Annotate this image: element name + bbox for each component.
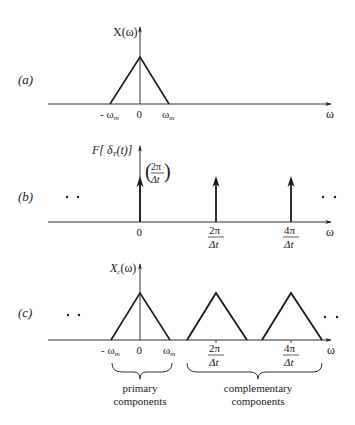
x-axis-label: ω: [326, 107, 334, 121]
svg-text:4π: 4π: [284, 224, 296, 236]
primary-label-line2: components: [113, 395, 166, 407]
complementary-triangle-1: [187, 293, 247, 340]
primary-label-line1: primary: [123, 382, 158, 394]
panel-a-label: (a): [18, 72, 33, 87]
y-axis-label: X(ω): [113, 25, 138, 39]
svg-text:2π: 2π: [209, 342, 221, 354]
tick-labels: - ωm 0 ωm: [100, 108, 174, 122]
tick-omega-m: ωm: [163, 344, 175, 358]
svg-text:Δt: Δt: [283, 356, 294, 368]
tick-neg-omega-m: - ωm: [100, 108, 119, 122]
x-axis-label: ω: [326, 225, 334, 239]
ellipsis-right: [324, 316, 326, 318]
sampling-spectrum-diagram: (a) X(ω) - ωm 0 ωm ω (b) F[ δT(t)] ( 2π: [0, 0, 355, 425]
ellipsis-right: [322, 196, 324, 198]
tick-2pi-over-dt: 2π Δt: [208, 342, 224, 368]
svg-text:2π: 2π: [209, 224, 221, 236]
tick-zero: 0: [137, 344, 143, 356]
primary-triangle: [111, 293, 170, 340]
panel-b: (b) F[ δT(t)] ( 2π Δt ) 0 2π Δt: [18, 143, 336, 250]
svg-text:Δt: Δt: [283, 238, 294, 250]
spectrum-triangle: [110, 57, 169, 104]
y-axis-label: F[ δT(t)]: [91, 143, 133, 158]
panel-c-label: (c): [18, 305, 32, 320]
complementary-triangle-2: [262, 293, 322, 340]
complementary-label-line1: complementary: [224, 382, 293, 394]
panel-b-label: (b): [18, 189, 33, 204]
complementary-brace: [187, 363, 322, 379]
svg-text:Δt: Δt: [150, 174, 160, 185]
x-axis-label: ω: [327, 343, 335, 357]
tick-2pi-over-dt: 2π Δt: [208, 224, 224, 250]
svg-text:2π: 2π: [151, 161, 161, 172]
impulse-weight-label: ( 2π Δt ): [145, 160, 171, 185]
panel-a: (a) X(ω) - ωm 0 ωm ω: [18, 25, 334, 122]
panel-c: (c) Xc(ω) - ωm 0 ωm 2π Δt 4π Δt ω: [18, 261, 338, 407]
svg-text:Δt: Δt: [208, 356, 219, 368]
complementary-label-line2: components: [231, 395, 284, 407]
ellipsis-left: [66, 196, 68, 198]
tick-zero: 0: [137, 108, 143, 120]
paren-right: ): [164, 160, 171, 183]
y-axis-label: Xc(ω): [109, 261, 136, 276]
tick-4pi-over-dt: 4π Δt: [283, 224, 299, 250]
primary-brace: [112, 363, 172, 379]
tick-4pi-over-dt: 4π Δt: [283, 342, 299, 368]
tick-omega-m: ωm: [162, 108, 174, 122]
svg-text:Δt: Δt: [208, 238, 219, 250]
svg-text:4π: 4π: [284, 342, 296, 354]
tick-neg-omega-m: - ωm: [101, 344, 120, 358]
tick-zero: 0: [137, 226, 143, 238]
ellipsis-left: [67, 314, 69, 316]
